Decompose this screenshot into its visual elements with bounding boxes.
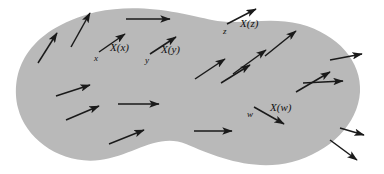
vector-field-figure: xX(x)yX(y)zX(z)wX(w) xyxy=(0,0,384,174)
point-label-x: x xyxy=(94,54,98,63)
vector-arrow-v-right-edge-out xyxy=(340,128,364,135)
vector-label-y: X(y) xyxy=(161,44,180,55)
manifold-region xyxy=(16,8,360,165)
point-label-z: z xyxy=(223,27,227,36)
point-label-y: y xyxy=(145,56,149,65)
vector-label-z: X(z) xyxy=(240,18,258,29)
vector-arrow-v-bottom-right-out xyxy=(330,140,357,160)
vector-label-w: X(w) xyxy=(270,102,291,113)
point-label-w: w xyxy=(247,110,253,119)
figure-canvas xyxy=(0,0,384,174)
vector-label-x: X(x) xyxy=(110,42,129,53)
